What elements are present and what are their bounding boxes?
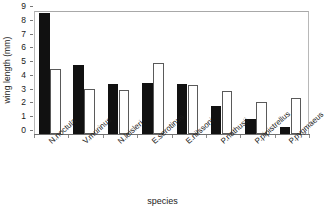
bar [153,63,164,134]
bar-group [142,12,164,134]
bar [177,84,188,134]
bar [50,69,61,133]
y-axis-tick-label: 6 [21,43,26,51]
x-axis-tick-mark [309,135,310,138]
y-axis-title: wing length (mm) [0,0,14,140]
y-axis-tick-mark [30,116,33,117]
plot-area [34,11,309,135]
y-axis-title-text: wing length (mm) [2,37,12,104]
x-axis-tick-mark [137,135,138,138]
y-axis-tick-label: 7 [21,30,26,38]
bar [39,13,50,134]
y-axis-tick-mark [30,20,33,21]
y-axis-tick-label: 0 [21,126,26,134]
bar-group [73,12,95,134]
bar-group [245,12,267,134]
y-axis-tick-mark [30,89,33,90]
y-axis-tick-mark [30,34,33,35]
x-axis-tick-mark [240,135,241,138]
x-axis-title: species [0,196,325,206]
x-axis-tick-mark [172,135,173,138]
y-axis-tick-mark [30,47,33,48]
x-axis-tick-mark [206,135,207,138]
y-axis-tick-label: 2 [21,98,26,106]
x-axis-tick-mark [103,135,104,138]
y-axis-tick-labels: 0123456789 [14,6,28,136]
x-axis-tick-mark [275,135,276,138]
y-axis-tick-mark [30,75,33,76]
x-axis-category-labels: N.noctulaV.murinusN.leisleriE.serotinusE… [34,139,325,189]
y-axis-tick-mark [30,61,33,62]
bar-chart-figure: wing length (mm) 0123456789 N.noctulaV.m… [0,0,325,222]
bar-group [39,12,61,134]
y-axis-tick-mark [30,102,33,103]
y-axis-tick-label: 9 [21,2,26,10]
bar [280,127,291,134]
x-axis-tick-mark [68,135,69,138]
y-axis-tick-mark [30,6,33,7]
y-axis-tick-label: 4 [21,71,26,79]
x-axis-title-text: species [147,196,178,206]
bar [108,84,119,134]
bar-group [108,12,130,134]
plot-inner [35,12,308,134]
x-axis-tick-mark [34,135,35,138]
y-axis-tick-label: 1 [21,112,26,120]
y-axis-tick-mark [30,130,33,131]
y-axis-tick-label: 3 [21,85,26,93]
y-axis-tick-label: 5 [21,57,26,65]
y-axis-tick-label: 8 [21,16,26,24]
bar-group [211,12,233,134]
